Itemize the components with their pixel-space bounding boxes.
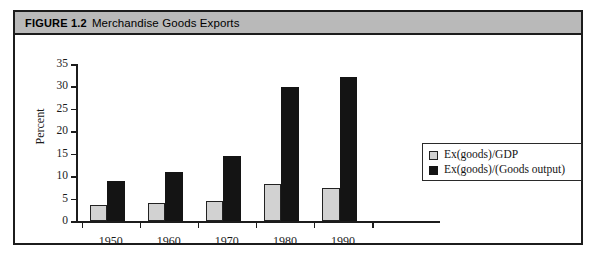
x-tick-mark — [314, 223, 316, 228]
y-tick-label: 0 — [62, 214, 68, 226]
y-axis-title: Percent — [33, 87, 48, 167]
bar-1970-goods-output — [223, 156, 240, 221]
figure-title-text: Merchandise Goods Exports — [92, 17, 240, 29]
y-tick-mark — [71, 221, 76, 223]
y-tick-label: 30 — [57, 79, 69, 91]
x-tick-label: 1970 — [205, 234, 249, 249]
y-tick-mark — [71, 176, 76, 178]
y-tick-mark — [71, 131, 76, 133]
bar-1970-gdp — [206, 201, 223, 221]
x-tick-label: 1980 — [263, 234, 307, 249]
legend-item-goods-output: Ex(goods)/(Goods output) — [429, 163, 575, 177]
legend-item-gdp: Ex(goods)/GDP — [429, 148, 575, 162]
bar-1990-gdp — [322, 188, 339, 221]
x-axis-line — [76, 221, 440, 223]
x-tick-mark — [82, 223, 84, 228]
y-tick-mark — [71, 64, 76, 66]
x-tick-mark — [256, 223, 258, 228]
x-tick-mark — [198, 223, 200, 228]
y-tick-mark — [71, 154, 76, 156]
bars-layer — [77, 64, 440, 221]
legend-label-goods-output: Ex(goods)/(Goods output) — [444, 164, 565, 176]
x-tick-mark — [140, 223, 142, 228]
legend-label-gdp: Ex(goods)/GDP — [444, 149, 518, 161]
legend-swatch-goods-output-icon — [429, 166, 438, 175]
y-tick-mark — [71, 86, 76, 88]
bar-1960-gdp — [148, 203, 165, 221]
figure-title-bar: FIGURE 1.2 Merchandise Goods Exports — [15, 12, 581, 35]
x-tick-label: 1990 — [321, 234, 365, 249]
y-tick-label: 5 — [62, 192, 68, 204]
bar-1950-goods-output — [107, 181, 124, 221]
legend-swatch-gdp-icon — [429, 151, 438, 160]
y-tick-mark — [71, 199, 76, 201]
bar-1950-gdp — [90, 205, 107, 221]
y-tick-label: 25 — [57, 102, 69, 114]
chart-legend: Ex(goods)/GDP Ex(goods)/(Goods output) — [422, 143, 582, 181]
bar-1980-goods-output — [281, 87, 298, 221]
y-tick-label: 15 — [57, 147, 69, 159]
x-tick-mark — [372, 223, 374, 228]
chart-plot-area: Percent 05101520253035 19501960197019801… — [15, 35, 581, 243]
bar-1980-gdp — [264, 184, 281, 221]
y-tick-label: 10 — [57, 169, 69, 181]
y-tick-mark — [71, 109, 76, 111]
bar-1960-goods-output — [165, 172, 182, 221]
figure-frame: FIGURE 1.2 Merchandise Goods Exports Per… — [13, 10, 583, 245]
x-tick-label: 1960 — [147, 234, 191, 249]
y-tick-label: 20 — [57, 124, 69, 136]
y-tick-label: 35 — [57, 57, 69, 69]
figure-number-label: FIGURE 1.2 — [25, 17, 87, 29]
bar-1990-goods-output — [340, 77, 357, 221]
x-tick-label: 1950 — [89, 234, 133, 249]
